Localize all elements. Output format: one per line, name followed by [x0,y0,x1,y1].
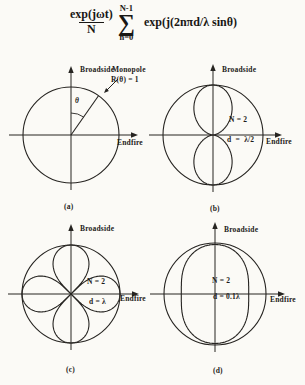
broadside-arrowhead [68,66,73,73]
endfire-arrowhead [131,132,138,137]
subplot-caption-a: (a) [64,203,73,211]
subplot-caption-b: (b) [210,205,220,213]
endfire-axis-label: Endfire [270,296,296,304]
endfire-axis-label: Endfire [117,139,143,147]
broadside-arrowhead [68,224,73,231]
plot-a [9,66,138,190]
subplot-caption-d: (d) [213,367,223,375]
endfire-axis-label: Endfire [266,138,292,146]
element-count-label: N = 2 [87,278,105,286]
broadside-axis-label: Broadside [222,66,256,74]
theta-arc [71,113,84,117]
polar-plots-canvas [0,0,305,385]
broadside-axis-label: Broadside [80,225,114,233]
endfire-axis-label: Endfire [120,295,146,303]
monopole-callout-line2: R(θ) = 1 [111,76,139,84]
plot-c [8,224,139,350]
theta-angle-label: θ [75,97,79,105]
monopole-callout-line1: Monopole [112,66,146,74]
element-count-label: N = 2 [212,277,230,285]
plot-d [150,222,285,352]
element-count-label: N = 2 [229,116,247,124]
plot-b [149,64,282,192]
broadside-axis-label: Broadside [224,226,258,234]
subplot-caption-c: (c) [66,366,75,374]
spacing-label: d = λ [89,298,106,306]
broadside-axis-label: Broadside [80,66,114,74]
broadside-arrowhead [212,222,217,229]
spacing-label: d = 0.1λ [213,293,240,301]
spacing-label: d = λ/2 [227,136,254,144]
broadside-arrowhead [210,64,215,71]
